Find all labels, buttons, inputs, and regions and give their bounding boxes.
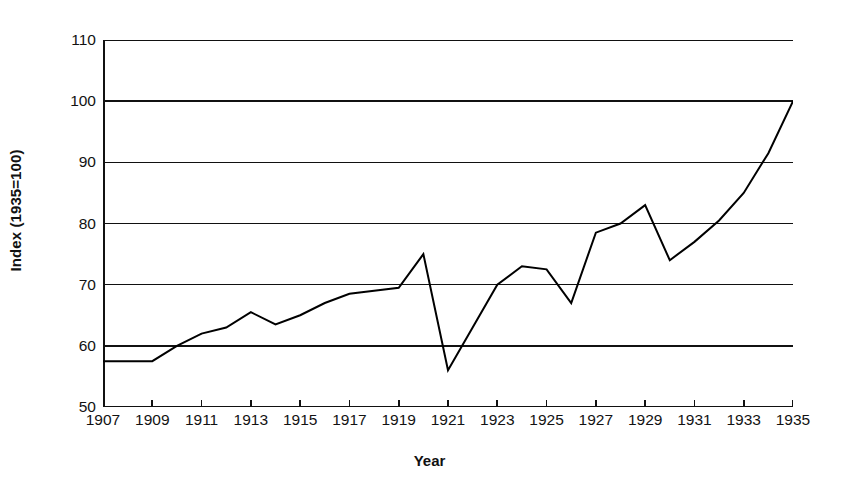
y-axis-title: Index (1935=100)	[0, 0, 30, 420]
y-tick-label: 70	[38, 277, 96, 293]
x-axis-tick-labels: 1907190919111913191519171919192119231925…	[0, 412, 841, 442]
plot-svg	[103, 40, 793, 407]
x-axis-title-text: Year	[414, 452, 446, 469]
y-tick-label: 90	[38, 155, 96, 171]
x-axis-title: Year	[0, 452, 841, 469]
y-tick-label: 60	[38, 338, 96, 354]
y-tick-label: 100	[38, 93, 96, 109]
plot-area	[103, 40, 793, 407]
y-tick-label: 110	[38, 32, 96, 48]
data-line-index	[103, 101, 793, 370]
y-axis-title-text: Index (1935=100)	[7, 149, 24, 271]
line-chart: Index (1935=100) 5060708090100110 190719…	[0, 0, 841, 493]
x-tick-label: 1935	[758, 412, 828, 428]
y-tick-label: 80	[38, 216, 96, 232]
